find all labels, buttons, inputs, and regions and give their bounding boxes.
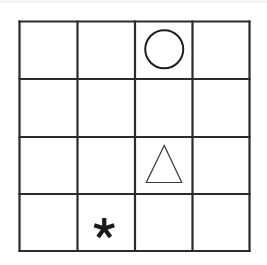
grid-cell-r3-c3	[193, 194, 250, 251]
grid-cell-r1-c2	[135, 79, 193, 137]
grid-cell-r2-c1	[78, 137, 136, 194]
grid-cell-r0-c0	[20, 22, 78, 80]
grid-cell-r0-c3	[193, 22, 250, 80]
grid-cell-r1-c1	[78, 79, 136, 137]
grid-cell-r1-c0	[20, 79, 78, 137]
grid-cells	[20, 22, 250, 252]
grid-cell-r2-c3	[193, 137, 250, 194]
grid-cell-r1-c3	[193, 79, 250, 137]
grid-cell-r2-c0	[20, 137, 78, 194]
grid-cell-r3-c0	[20, 194, 78, 251]
grid-diagram	[0, 0, 267, 265]
grid-cell-r3-c2	[135, 194, 193, 251]
grid-cell-r0-c1	[78, 22, 136, 80]
